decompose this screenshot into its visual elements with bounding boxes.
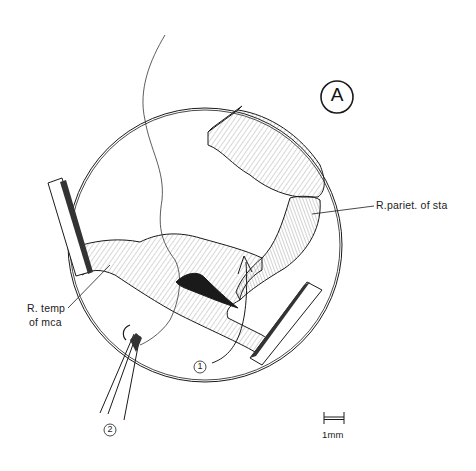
left-vessel-clip — [48, 178, 93, 276]
label-temporal-mca-line2: of mca — [29, 316, 62, 329]
scalp-flap — [208, 106, 324, 197]
label-temporal-mca-line1: R. temp — [27, 302, 65, 315]
scale-bar-label: 1mm — [322, 428, 344, 441]
label-parietal-sta: R.pariet. of sta — [376, 199, 447, 212]
panel-label: A — [321, 84, 353, 106]
parietal-leader-line — [312, 206, 374, 214]
marker-1-label: 1 — [193, 361, 207, 371]
scale-bar — [324, 412, 344, 424]
surgical-illustration — [0, 0, 476, 471]
forceps-instrument — [100, 325, 142, 420]
marker-2-label: 2 — [103, 424, 117, 434]
